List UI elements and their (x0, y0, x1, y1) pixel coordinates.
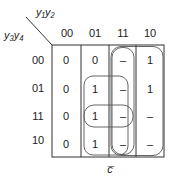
cell-01-00: 0 (52, 75, 80, 103)
cell-00-10: 1 (136, 46, 164, 74)
cell-10-10: – (136, 130, 164, 158)
cell-00-11: – (109, 46, 137, 74)
row-variable-label: y₃y₄ (4, 29, 24, 41)
cell-00-00: 0 (52, 46, 80, 74)
bottom-label-c-bar: c̅ (100, 163, 120, 175)
col-header-00: 00 (56, 27, 78, 39)
row-header-00: 00 (28, 54, 48, 66)
cell-10-01: 1 (81, 130, 109, 158)
cell-11-10: – (136, 102, 164, 130)
cell-10-00: 0 (52, 130, 80, 158)
row-header-01: 01 (28, 82, 48, 94)
col-header-11: 11 (112, 27, 134, 39)
col-variable-label: y₁y₂ (36, 6, 55, 18)
cell-01-11: – (109, 75, 137, 103)
cell-01-10: 1 (136, 75, 164, 103)
cell-11-00: 0 (52, 102, 80, 130)
cell-00-01: 0 (81, 46, 109, 74)
row-header-10: 10 (28, 134, 48, 146)
col-header-10: 10 (139, 27, 161, 39)
cell-11-01: 1 (81, 102, 109, 130)
row-header-11: 11 (28, 110, 48, 122)
col-header-01: 01 (84, 27, 106, 39)
cell-01-01: 1 (81, 75, 109, 103)
cell-11-11: – (109, 102, 137, 130)
cell-10-11: – (109, 130, 137, 158)
